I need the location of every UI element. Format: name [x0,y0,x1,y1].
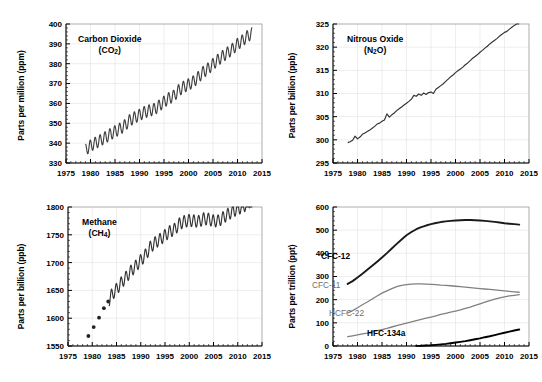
greenhouse-gas-figure: 3303403503603703803904001975198019851990… [0,0,542,382]
svg-text:1750: 1750 [46,231,64,240]
svg-text:340: 340 [49,139,63,148]
svg-text:2000: 2000 [180,169,198,178]
series-label-cfc-11: CFC-11 [312,280,340,290]
svg-text:1995: 1995 [422,169,440,178]
co2-plot: 3303403503603703803904001975198019851990… [0,0,271,191]
svg-text:330: 330 [49,159,63,168]
svg-text:1975: 1975 [59,352,77,361]
svg-text:315: 315 [316,66,330,75]
svg-text:1995: 1995 [422,352,440,361]
co2-title-line2-pre: (CO [99,45,115,55]
svg-text:2015: 2015 [520,352,538,361]
series-label-cfc-12: CFC-12 [321,251,350,261]
ch4-title-line2-post: ) [107,228,110,238]
svg-text:300: 300 [316,136,330,145]
series-label-hfc-134a: HFC-134a [367,328,405,338]
svg-text:1800: 1800 [46,203,64,212]
svg-text:1985: 1985 [373,169,391,178]
svg-text:1985: 1985 [106,169,124,178]
svg-text:2000: 2000 [447,352,465,361]
ch4-title-line1: Methane [82,217,117,227]
svg-text:1980: 1980 [349,352,367,361]
svg-text:295: 295 [316,159,330,168]
n2o-title-line2-pre: (N [364,45,373,55]
ch4-title-line2-pre: (CH [89,228,104,238]
svg-text:1975: 1975 [57,169,75,178]
svg-text:1975: 1975 [324,169,342,178]
svg-text:1550: 1550 [46,342,64,351]
svg-text:2005: 2005 [471,352,489,361]
n2o-title-line2-post: O) [377,45,387,55]
co2-title-line2-post: ) [118,45,121,55]
svg-text:350: 350 [49,119,63,128]
svg-text:1990: 1990 [398,352,416,361]
panel-nitrous-oxide: 2953003053103153203251975198019851990199… [271,0,542,191]
svg-text:2010: 2010 [496,169,514,178]
svg-text:1995: 1995 [155,169,173,178]
panel-carbon-dioxide: 3303403503603703803904001975198019851990… [0,0,271,191]
svg-text:1980: 1980 [82,169,100,178]
svg-text:1975: 1975 [324,352,342,361]
svg-text:2000: 2000 [180,352,198,361]
svg-text:1990: 1990 [131,169,149,178]
svg-text:1980: 1980 [83,352,101,361]
svg-text:2005: 2005 [205,352,223,361]
svg-text:1990: 1990 [132,352,150,361]
svg-text:320: 320 [316,43,330,52]
n2o-title-line1: Nitrous Oxide [347,34,403,44]
svg-text:360: 360 [49,99,63,108]
svg-text:400: 400 [49,20,63,29]
svg-text:1980: 1980 [349,169,367,178]
svg-text:1985: 1985 [108,352,126,361]
svg-text:310: 310 [316,89,330,98]
svg-text:1700: 1700 [46,259,64,268]
svg-text:1995: 1995 [156,352,174,361]
svg-text:2005: 2005 [471,169,489,178]
svg-text:2015: 2015 [520,169,538,178]
svg-text:390: 390 [49,40,63,49]
svg-text:2015: 2015 [253,169,271,178]
svg-text:1985: 1985 [373,352,391,361]
svg-text:1600: 1600 [46,314,64,323]
svg-text:370: 370 [49,79,63,88]
svg-text:1650: 1650 [46,286,64,295]
svg-text:100: 100 [316,319,330,328]
n2o-plot: 2953003053103153203251975198019851990199… [271,0,542,191]
n2o-panel-title: Nitrous Oxide (N2O) [347,34,403,57]
svg-text:380: 380 [49,60,63,69]
svg-text:600: 600 [316,203,330,212]
svg-text:0: 0 [325,342,330,351]
svg-text:2005: 2005 [204,169,222,178]
ch4-plot: 1550160016501700175018001975198019851990… [0,191,271,382]
svg-text:200: 200 [316,296,330,305]
svg-text:305: 305 [316,113,330,122]
ch4-panel-title: Methane (CH4) [82,217,117,240]
svg-text:2010: 2010 [229,169,247,178]
svg-text:325: 325 [316,20,330,29]
svg-text:2000: 2000 [447,169,465,178]
svg-text:1990: 1990 [398,169,416,178]
series-label-hcfc-22: HCFC-22 [329,308,364,318]
svg-text:2010: 2010 [496,352,514,361]
co2-title-line1: Carbon Dioxide [78,34,142,44]
co2-panel-title: Carbon Dioxide (CO2) [78,34,142,57]
panel-methane: 1550160016501700175018001975198019851990… [0,191,271,382]
svg-text:500: 500 [316,226,330,235]
panel-halocarbons: 0100200300400500600197519801985199019952… [271,191,542,382]
svg-text:2010: 2010 [229,352,247,361]
svg-text:2015: 2015 [253,352,271,361]
